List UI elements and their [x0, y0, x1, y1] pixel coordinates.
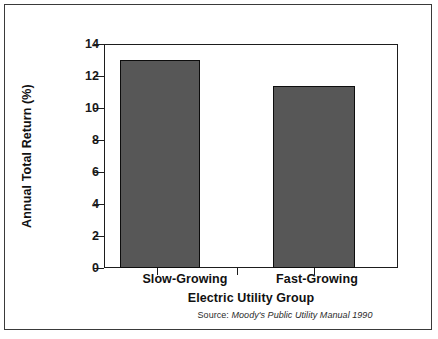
y-tick-label-6: 6 [92, 165, 99, 179]
y-tick-label-14: 14 [85, 37, 99, 51]
source-note: Source: Moody's Public Utility Manual 19… [150, 310, 420, 320]
bar-fast-growing[interactable] [273, 86, 355, 268]
y-tick-label-0: 0 [92, 261, 99, 275]
y-tick-label-2: 2 [92, 229, 99, 243]
source-note-prefix: Source: [198, 310, 232, 320]
y-tick-label-4: 4 [92, 197, 99, 211]
x-category-label-fast-growing: Fast-Growing [236, 272, 398, 286]
bar-slow-growing[interactable] [120, 60, 200, 268]
plot-surface: 0 2 4 6 8 10 12 14 [104, 44, 398, 268]
y-tick-label-12: 12 [85, 69, 99, 83]
y-axis-title: Annual Total Return (%) [18, 44, 36, 268]
source-note-reference: Moody's Public Utility Manual 1990 [231, 310, 372, 320]
bar-chart-figure: Annual Total Return (%) 0 2 4 6 8 10 [0, 0, 438, 339]
x-axis-title: Electric Utility Group [104, 291, 398, 305]
y-tick-label-8: 8 [92, 133, 99, 147]
y-tick-label-10: 10 [85, 101, 99, 115]
